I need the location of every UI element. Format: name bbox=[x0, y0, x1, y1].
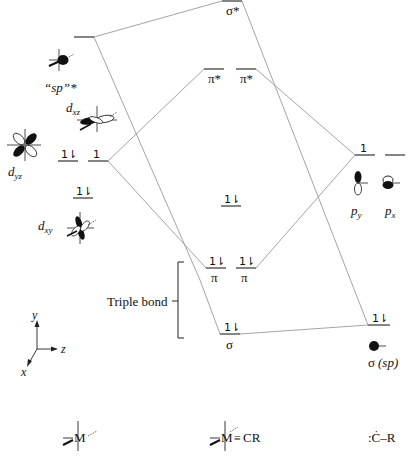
center-triple-bond: ≡ bbox=[234, 431, 241, 445]
electrons-pi-2: 1⇂ bbox=[239, 255, 255, 268]
dxy-orbital-icon bbox=[67, 212, 96, 244]
electrons-dyz: 1⇂ bbox=[61, 148, 77, 161]
label-dxz: dxz bbox=[66, 100, 80, 117]
label-dxy: dxy bbox=[38, 218, 53, 235]
label-sigma-sp: σ(sp) bbox=[368, 355, 398, 370]
axis-x-label: x bbox=[20, 365, 27, 379]
py-orbital-icon bbox=[355, 171, 369, 195]
electrons-sigma-sp: 1⇂ bbox=[372, 312, 388, 325]
correlation-lines bbox=[94, 1, 368, 334]
electrons-dxy: 1⇂ bbox=[76, 185, 92, 198]
label-sigma: σ bbox=[226, 337, 233, 352]
label-px: px bbox=[384, 203, 396, 220]
right-levels: 1 1⇂ bbox=[355, 142, 405, 325]
axes-icon: y z x bbox=[20, 308, 66, 379]
dxz-orbital-icon bbox=[77, 106, 117, 132]
axis-z-label: z bbox=[60, 342, 66, 356]
center-metal-label: M bbox=[221, 430, 233, 445]
electrons-sigma: 1⇂ bbox=[224, 321, 240, 334]
label-sp-star: “sp”* bbox=[44, 80, 77, 95]
left-metal-fragment: M bbox=[63, 421, 97, 451]
mo-diagram: 1⇂ 1 1⇂ “sp”* dxz dyz dxy bbox=[0, 0, 410, 456]
label-py: py bbox=[350, 203, 362, 220]
triple-bond-bracket: Triple bond bbox=[107, 262, 184, 338]
label-dyz: dyz bbox=[8, 164, 22, 181]
axis-y-label: y bbox=[31, 308, 38, 322]
center-cr-label: CR bbox=[243, 430, 261, 445]
sigma-sp-orbital-icon bbox=[369, 341, 386, 351]
electrons-nonbonding: 1⇂ bbox=[224, 193, 240, 206]
center-levels: σ* π* π* 1⇂ 1⇂ π 1⇂ π 1⇂ σ bbox=[204, 1, 256, 352]
triple-bond-label: Triple bond bbox=[107, 294, 168, 309]
sp-orbital-icon bbox=[49, 49, 74, 71]
label-pi-2: π bbox=[241, 270, 248, 285]
electrons-py: 1 bbox=[360, 142, 367, 155]
electrons-dxz: 1 bbox=[93, 148, 100, 161]
electrons-pi-1: 1⇂ bbox=[209, 255, 225, 268]
label-pi-star-2: π* bbox=[240, 71, 253, 86]
dyz-orbital-icon bbox=[7, 129, 41, 161]
carbyne-label: :Ċ–R bbox=[368, 430, 396, 445]
label-pi-1: π bbox=[211, 270, 218, 285]
label-sigma-star: σ* bbox=[226, 3, 240, 18]
left-metal-label: M bbox=[74, 430, 86, 445]
label-pi-star-1: π* bbox=[208, 71, 221, 86]
center-complex: M ≡ CR bbox=[210, 421, 261, 451]
px-orbital-icon bbox=[383, 176, 401, 189]
